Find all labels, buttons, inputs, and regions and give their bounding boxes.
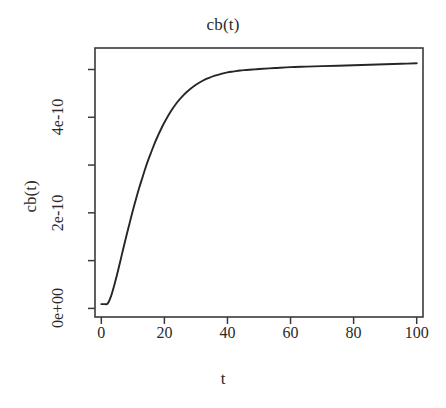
series-line: [101, 63, 416, 304]
y-tick-label: 4e-10: [50, 87, 66, 147]
y-tick-marks: [88, 70, 95, 309]
x-tick-marks: [101, 317, 416, 324]
y-axis-label: cb(t): [22, 147, 39, 247]
axis-frame: [95, 48, 423, 317]
x-tick-label: 0: [97, 325, 105, 341]
x-tick-label: 60: [283, 325, 299, 341]
x-tick-label: 80: [346, 325, 362, 341]
y-tick-label: 2e-10: [50, 183, 66, 243]
x-tick-label: 20: [156, 325, 172, 341]
y-tick-label: 0e+00: [50, 278, 66, 338]
plot-border: [95, 48, 423, 317]
plot-area: [0, 0, 446, 408]
data-series-group: [101, 63, 416, 304]
x-tick-label: 40: [219, 325, 235, 341]
x-axis-label: t: [0, 370, 446, 387]
x-tick-label: 100: [405, 325, 429, 341]
chart-figure: cb(t) 020406080100 0e+002e-104e-10 t cb(…: [0, 0, 446, 408]
